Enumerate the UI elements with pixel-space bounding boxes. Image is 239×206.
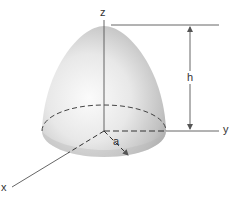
radius-label: a (113, 136, 119, 147)
x-axis (12, 153, 68, 187)
paraboloid-diagram (0, 0, 239, 206)
y-axis-label: y (223, 124, 229, 135)
height-label: h (187, 72, 193, 83)
z-axis-label: z (100, 7, 106, 18)
x-axis-label: x (1, 182, 7, 193)
